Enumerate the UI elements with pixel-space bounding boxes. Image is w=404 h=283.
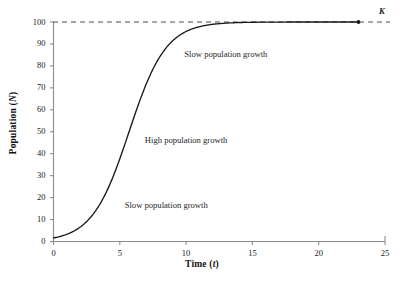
y-axis-title-paren-open: ( (8, 102, 18, 108)
y-axis-title-text: Population (8, 108, 18, 154)
x-axis-title: Time (t) (0, 259, 404, 269)
y-tick-label: 90 (20, 38, 46, 48)
y-tick-label: 80 (20, 60, 46, 70)
y-tick-label: 20 (20, 192, 46, 202)
y-axis-title-paren-close: ) (8, 92, 18, 95)
x-tick-label: 10 (171, 248, 201, 258)
chart-annotation: High population growth (145, 135, 228, 145)
logistic-growth-chart: K Time (t) Population (N) 01020304050607… (0, 0, 404, 283)
y-axis-title: Population (N) (8, 63, 18, 183)
curve-end-marker (357, 20, 361, 24)
x-axis-title-paren-close: ) (216, 259, 219, 269)
chart-annotation: Slow population growth (184, 49, 267, 59)
x-tick-label: 20 (304, 248, 334, 258)
x-tick-label: 0 (39, 248, 69, 258)
y-tick-label: 100 (20, 17, 46, 27)
y-tick-label: 70 (20, 82, 46, 92)
y-tick-label: 0 (20, 236, 46, 246)
y-tick-label: 50 (20, 126, 46, 136)
y-tick-label: 10 (20, 214, 46, 224)
carrying-capacity-label: K (379, 6, 385, 16)
y-axis-title-symbol: N (8, 95, 18, 102)
x-tick-label: 25 (370, 248, 400, 258)
y-tick-label: 40 (20, 148, 46, 158)
y-tick-label: 30 (20, 170, 46, 180)
x-tick-label: 15 (237, 248, 267, 258)
x-axis-title-text: Time (185, 259, 207, 269)
y-tick-label: 60 (20, 104, 46, 114)
chart-annotation: Slow population growth (125, 200, 208, 210)
x-tick-label: 5 (105, 248, 135, 258)
